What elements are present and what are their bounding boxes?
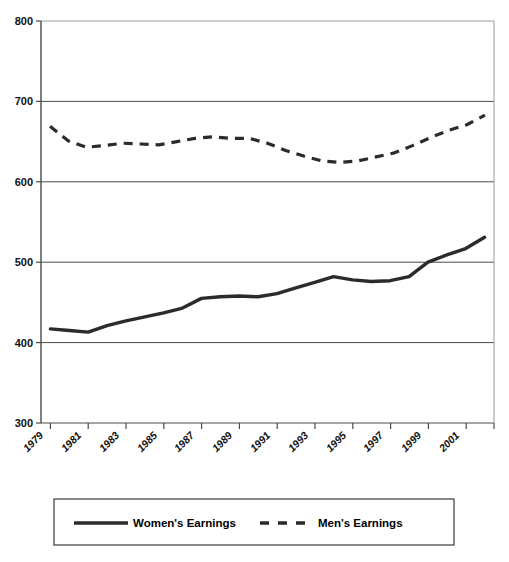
y-tick-marks <box>36 21 41 423</box>
y-tick-label-700: 700 <box>15 95 33 107</box>
y-tick-label-500: 500 <box>15 256 33 268</box>
y-tick-label-600: 600 <box>15 176 33 188</box>
x-tick-label-1979: 1979 <box>20 429 45 454</box>
plot-area-background <box>41 21 494 423</box>
x-tick-label-1999: 1999 <box>398 429 423 454</box>
legend: Women's Earnings Men's Earnings <box>54 499 454 545</box>
y-tick-label-800: 800 <box>15 15 33 27</box>
x-tick-label-1989: 1989 <box>209 429 234 454</box>
x-tick-label-1995: 1995 <box>323 429 348 454</box>
chart-svg: 800 700 600 500 400 300 1979 1981 <box>0 0 509 562</box>
x-tick-label-1983: 1983 <box>96 429 121 454</box>
x-tick-label-1987: 1987 <box>171 428 197 454</box>
x-tick-label-1991: 1991 <box>247 429 272 454</box>
legend-label-womens-earnings: Women's Earnings <box>133 517 236 529</box>
x-tick-marks <box>50 423 494 429</box>
x-axis-tick-labels: 1979 1981 1983 1985 1987 1989 1991 1993 … <box>20 428 461 455</box>
y-tick-label-300: 300 <box>15 417 33 429</box>
x-tick-label-2001: 2001 <box>436 429 462 455</box>
y-axis-tick-labels: 800 700 600 500 400 300 <box>15 15 33 429</box>
y-tick-label-400: 400 <box>15 337 33 349</box>
x-tick-label-1985: 1985 <box>134 429 159 454</box>
x-tick-label-1993: 1993 <box>285 429 310 454</box>
earnings-line-chart: 800 700 600 500 400 300 1979 1981 <box>0 0 509 562</box>
x-tick-label-1981: 1981 <box>58 429 83 454</box>
x-tick-label-1997: 1997 <box>360 428 386 454</box>
legend-label-mens-earnings: Men's Earnings <box>318 517 403 529</box>
